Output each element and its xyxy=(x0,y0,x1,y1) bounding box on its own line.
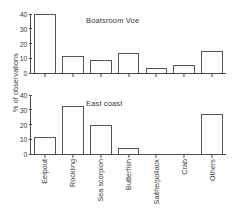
y-tick-label: 10 xyxy=(20,55,31,62)
bar xyxy=(201,114,223,154)
bar-slot xyxy=(59,95,87,154)
bar xyxy=(34,14,56,73)
bar-slot xyxy=(198,14,226,73)
x-axis-label: Sea scorpion xyxy=(96,159,105,202)
y-tick-label: 10 xyxy=(20,136,31,143)
bar-slot xyxy=(170,14,198,73)
bar-series-bottom xyxy=(31,95,226,154)
x-tick-mark xyxy=(44,154,45,158)
bar xyxy=(90,125,112,155)
x-axis-label: Rockling xyxy=(68,159,77,187)
plot-area-top: 010203040 xyxy=(30,14,226,74)
y-tick-label: 30 xyxy=(20,25,31,32)
plot-area-bottom: 010203040 xyxy=(30,95,226,155)
bar xyxy=(62,56,84,73)
bar-slot xyxy=(198,95,226,154)
chart-panel-boatsroom-voe: Boatsroom Voe 010203040 xyxy=(30,14,226,74)
figure: % of observations Boatsroom Voe 01020304… xyxy=(0,0,240,221)
x-tick-mark xyxy=(72,154,73,158)
bar-slot xyxy=(170,95,198,154)
x-tick-mark xyxy=(184,154,185,158)
y-tick-label: 40 xyxy=(20,92,31,99)
x-tick-mark xyxy=(156,73,157,77)
x-axis-label: Butterfish xyxy=(124,159,133,190)
bar-series-top xyxy=(31,14,226,73)
x-label-slot: Crab xyxy=(170,158,198,220)
x-label-slot: Others xyxy=(198,158,226,220)
chart-panel-east-coast: East coast 010203040 xyxy=(30,95,226,155)
bar-slot xyxy=(142,95,170,154)
bar-slot xyxy=(115,14,143,73)
y-tick-label: 20 xyxy=(20,121,31,128)
y-tick-label: 20 xyxy=(20,40,31,47)
bar-slot xyxy=(31,14,59,73)
bar-slot xyxy=(87,95,115,154)
bar xyxy=(62,106,84,154)
x-tick-mark xyxy=(100,154,101,158)
bar-slot xyxy=(59,14,87,73)
x-tick-mark xyxy=(128,73,129,77)
x-tick-mark xyxy=(212,154,213,158)
bar xyxy=(201,51,223,73)
x-tick-mark xyxy=(212,73,213,77)
y-tick-label: 40 xyxy=(20,11,31,18)
bar-slot xyxy=(142,14,170,73)
x-axis-label: Saithe/pollack xyxy=(152,159,161,204)
y-tick-label: 0 xyxy=(24,151,31,158)
y-tick-label: 0 xyxy=(24,70,31,77)
x-axis-label: Eelpout xyxy=(40,159,49,184)
bar-slot xyxy=(87,14,115,73)
x-tick-mark xyxy=(44,73,45,77)
bar xyxy=(34,137,56,154)
bar xyxy=(173,65,195,73)
x-tick-mark xyxy=(156,154,157,158)
x-axis-label: Crab xyxy=(180,159,189,175)
y-axis-title: % of observations xyxy=(11,35,20,131)
x-label-slot: Saithe/pollack xyxy=(142,158,170,220)
x-label-slot: Sea scorpion xyxy=(86,158,114,220)
x-tick-mark xyxy=(184,73,185,77)
bar xyxy=(90,60,112,73)
bar-slot xyxy=(31,95,59,154)
x-tick-mark xyxy=(128,154,129,158)
x-label-slot: Eelpout xyxy=(30,158,58,220)
bar xyxy=(118,53,140,73)
x-axis-labels: EelpoutRocklingSea scorpionButterfishSai… xyxy=(30,158,226,220)
x-axis-label: Others xyxy=(208,159,217,181)
x-tick-mark xyxy=(72,73,73,77)
x-label-slot: Butterfish xyxy=(114,158,142,220)
x-label-slot: Rockling xyxy=(58,158,86,220)
y-tick-label: 30 xyxy=(20,106,31,113)
x-tick-mark xyxy=(100,73,101,77)
bar-slot xyxy=(115,95,143,154)
